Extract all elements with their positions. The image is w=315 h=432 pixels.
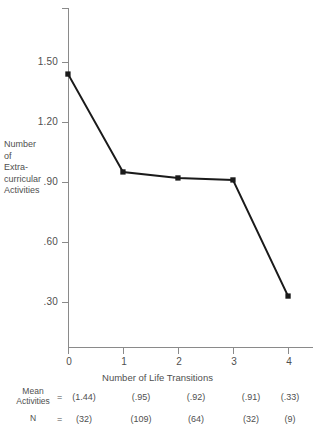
data-point-2[interactable] — [175, 175, 180, 180]
x-axis-title: Number of Life Transitions — [0, 372, 315, 383]
footer-n-value-3: (32) — [231, 414, 271, 424]
footer-mean-value-1: (.95) — [121, 392, 161, 402]
y-axis-title-line-3: curricular — [4, 174, 62, 186]
y-tick-label-060: .60 — [24, 236, 58, 247]
x-axis-ticks — [69, 347, 289, 354]
y-axis-title-line-0: Number — [4, 139, 62, 151]
footer-row-n: N = (32) (109) (64) (32) (9) — [0, 408, 315, 429]
x-tick-label-4: 4 — [279, 356, 299, 367]
y-axis-title-line-4: Activities — [4, 185, 62, 197]
y-axis-title-line-2: Extra- — [4, 162, 62, 174]
footer-mean-value-4: (.33) — [270, 392, 310, 402]
y-tick-label-150: 1.50 — [24, 56, 58, 67]
data-point-0[interactable] — [65, 71, 70, 76]
x-tick-label-1: 1 — [114, 356, 134, 367]
footer-n-value-0: (32) — [64, 414, 104, 424]
y-tick-label-120: 1.20 — [24, 116, 58, 127]
y-axis-title-line-1: of — [4, 151, 62, 163]
footer-n-value-4: (9) — [270, 414, 310, 424]
y-axis-ticks — [62, 9, 68, 303]
footer-stats-table: Mean Activities = (1.44) (.95) (.92) (.9… — [0, 386, 315, 430]
footer-mean-value-2: (.92) — [176, 392, 216, 402]
data-point-3[interactable] — [230, 177, 235, 182]
chart-container: 1.50 1.20 .90 .60 .30 Number of Extra- c… — [0, 0, 315, 432]
footer-n-value-1: (109) — [121, 414, 161, 424]
footer-mean-value-3: (.91) — [231, 392, 271, 402]
footer-row-n-label: N — [10, 414, 56, 424]
footer-row-n-equals: = — [57, 414, 62, 424]
footer-n-value-2: (64) — [176, 414, 216, 424]
data-line — [68, 74, 288, 296]
x-tick-label-3: 3 — [224, 356, 244, 367]
y-axis-title: Number of Extra- curricular Activities — [4, 139, 62, 197]
footer-row-n-label-line-0: N — [10, 414, 56, 424]
data-point-1[interactable] — [120, 169, 125, 174]
data-point-4[interactable] — [285, 293, 290, 298]
footer-mean-value-0: (1.44) — [64, 392, 104, 402]
x-tick-label-0: 0 — [59, 356, 79, 367]
footer-row-mean: Mean Activities = (1.44) (.95) (.92) (.9… — [0, 386, 315, 407]
footer-row-mean-equals: = — [57, 392, 62, 402]
footer-row-mean-label-line-1: Activities — [10, 397, 56, 407]
y-tick-label-030: .30 — [24, 296, 58, 307]
x-tick-label-2: 2 — [169, 356, 189, 367]
footer-row-mean-label: Mean Activities — [10, 387, 56, 406]
data-markers — [65, 71, 290, 298]
